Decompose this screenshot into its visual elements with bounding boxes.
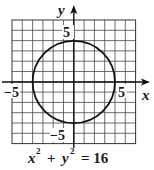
x-tick-label-neg5: −5 [4, 85, 19, 100]
svg-text:= 16: = 16 [81, 150, 109, 166]
svg-text:x: x [27, 150, 36, 166]
x-tick-label-5: 5 [118, 85, 125, 100]
x-axis-label: x [141, 87, 150, 103]
y-tick-label-neg5: −5 [50, 128, 65, 143]
graph: y x 5 −5 5 −5 x 2 + y 2 = 16 [0, 0, 154, 170]
svg-text:+: + [47, 150, 56, 166]
svg-text:y: y [60, 150, 69, 166]
svg-text:2: 2 [70, 146, 75, 156]
y-tick-label-5: 5 [63, 25, 70, 40]
svg-text:2: 2 [36, 146, 41, 156]
equation-caption: x 2 + y 2 = 16 [27, 146, 109, 166]
y-axis-label: y [56, 2, 65, 18]
